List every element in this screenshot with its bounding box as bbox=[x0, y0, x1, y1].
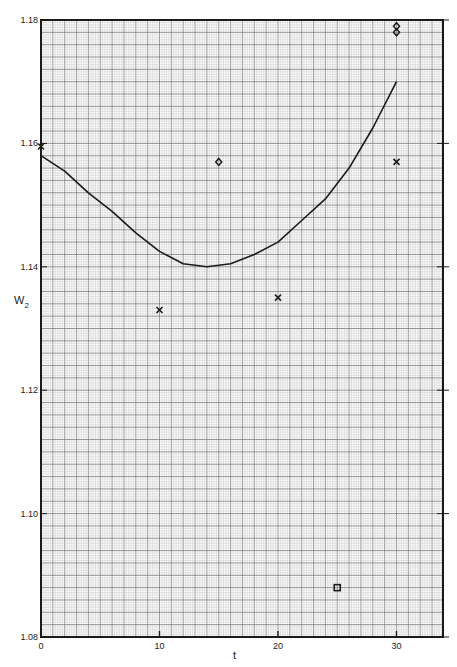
y-tick-label: 1.18 bbox=[20, 15, 38, 25]
chart: 1.081.101.121.141.161.18 0102030 t W2 bbox=[0, 0, 457, 667]
y-tick-label: 1.08 bbox=[20, 632, 38, 642]
x-tick-label: 30 bbox=[391, 641, 401, 651]
y-tick-label: 1.10 bbox=[20, 509, 38, 519]
y-axis-label: W2 bbox=[14, 294, 29, 310]
x-tick-label: 20 bbox=[273, 641, 283, 651]
y-tick-label: 1.14 bbox=[20, 262, 38, 272]
y-axis-label-main: W bbox=[14, 294, 25, 306]
x-axis-label: t bbox=[233, 649, 236, 661]
y-tick-label: 1.12 bbox=[20, 385, 38, 395]
y-axis-label-subscript: 2 bbox=[24, 301, 29, 310]
graph-paper-grid bbox=[41, 20, 443, 637]
x-tick-label: 0 bbox=[38, 641, 43, 651]
y-tick-label: 1.16 bbox=[20, 138, 38, 148]
x-tick-label: 10 bbox=[154, 641, 164, 651]
